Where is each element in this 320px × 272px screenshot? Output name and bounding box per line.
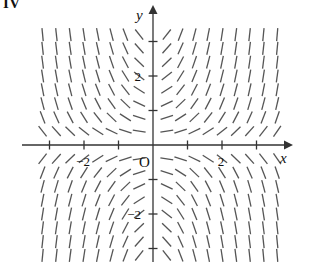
direction-field-segment: [276, 97, 279, 110]
direction-field-segment: [161, 184, 173, 190]
direction-field-segment: [221, 221, 224, 234]
direction-field-segment: [174, 129, 186, 133]
x-tick-label: −2: [76, 154, 90, 169]
direction-field-segment: [233, 167, 239, 179]
direction-field-segment: [189, 128, 201, 134]
direction-field-segment: [42, 208, 44, 221]
direction-field-segment: [161, 101, 173, 107]
direction-field-segment: [249, 42, 251, 55]
direction-field-segment: [262, 83, 265, 96]
direction-field-segment: [55, 194, 58, 207]
direction-field-segment: [235, 249, 237, 262]
direction-field-segment: [217, 127, 227, 135]
direction-field-segment: [193, 235, 197, 247]
direction-field-segment: [120, 169, 131, 176]
direction-field-segment: [221, 28, 223, 41]
direction-field-segment: [135, 250, 143, 260]
direction-field-segment: [123, 236, 128, 248]
direction-field-segment: [55, 56, 57, 69]
direction-field-segment: [206, 70, 210, 82]
direction-field-segment: [248, 208, 250, 221]
direction-field-segment: [276, 208, 278, 221]
direction-field-segment: [163, 29, 171, 39]
direction-field-segment: [162, 58, 171, 67]
direction-field-segment: [192, 208, 197, 220]
direction-field-segment: [109, 208, 114, 220]
direction-field-segment: [68, 97, 72, 109]
direction-field-segment: [263, 56, 265, 69]
direction-field-segment: [160, 130, 173, 132]
direction-field-segment: [96, 235, 99, 248]
direction-field-segment: [234, 180, 238, 192]
direction-field-segment: [275, 111, 279, 123]
y-tick-label: −2: [127, 207, 141, 222]
direction-field-segment: [161, 197, 172, 204]
direction-field-segment: [189, 156, 201, 162]
direction-field-segment: [96, 42, 99, 55]
direction-field-segment: [178, 29, 183, 41]
direction-field-segment: [262, 70, 264, 83]
direction-field-segment: [69, 42, 71, 55]
direction-field-segment: [205, 181, 211, 193]
direction-field-segment: [261, 167, 266, 179]
direction-field-segment: [207, 222, 210, 235]
x-axis-label: x: [279, 150, 287, 166]
direction-field-segment: [190, 113, 199, 122]
direction-field-segment: [206, 84, 211, 96]
direction-field-segment: [276, 56, 278, 69]
direction-field-segment: [234, 208, 237, 221]
direction-field-segment: [122, 70, 129, 81]
direction-field-segment: [235, 28, 237, 41]
direction-field-segment: [205, 98, 211, 110]
direction-field-segment: [191, 84, 197, 96]
direction-field-segment: [95, 181, 101, 193]
direction-field-segment: [247, 111, 252, 123]
direction-field-segment: [161, 171, 173, 175]
direction-field-segment: [83, 221, 86, 234]
direction-field-segment: [42, 235, 43, 248]
direction-field-segment: [109, 194, 115, 206]
x-tick-label: 2: [218, 154, 225, 169]
direction-field-segment: [110, 42, 114, 54]
direction-field-segment: [121, 99, 130, 108]
direction-field-segment: [55, 208, 57, 221]
direction-field-segment: [203, 155, 214, 162]
direction-field-segment: [110, 249, 113, 262]
direction-field-segment: [177, 195, 185, 205]
direction-field-segment: [249, 28, 250, 41]
direction-field-segment: [69, 56, 71, 69]
direction-field-segment: [69, 221, 71, 234]
direction-field-segment: [55, 83, 58, 96]
direction-field-segment: [69, 249, 71, 262]
direction-field-segment: [277, 28, 278, 41]
direction-field-segment: [108, 181, 115, 192]
direction-field-segment: [178, 42, 183, 54]
direction-field-segment: [106, 128, 118, 134]
direction-field-segment: [69, 84, 72, 97]
direction-field-segment: [178, 222, 184, 234]
direction-field-segment: [206, 208, 210, 220]
direction-field-segment: [121, 85, 129, 95]
direction-field-segment: [220, 70, 223, 83]
direction-field-segment: [120, 114, 131, 121]
direction-field-segment: [52, 126, 61, 136]
direction-field-segment: [177, 70, 184, 81]
direction-field-segment: [69, 28, 71, 41]
direction-field-segment: [276, 70, 278, 83]
direction-field-segment: [123, 29, 128, 41]
direction-field-segment: [259, 126, 267, 136]
direction-field-segment: [96, 56, 99, 69]
direction-field-segment: [42, 221, 44, 234]
direction-field-segment: [234, 194, 237, 207]
direction-field-segment: [67, 112, 73, 124]
direction-field-segment: [221, 235, 223, 248]
direction-field-segment: [248, 194, 251, 207]
direction-field-segment: [262, 97, 265, 110]
direction-field-segment: [161, 115, 173, 119]
direction-field-segment: [235, 221, 237, 234]
direction-field-segment: [69, 70, 72, 83]
direction-field-segment: [42, 56, 44, 69]
direction-field-segment: [235, 235, 237, 248]
direction-field-segment: [276, 194, 278, 207]
direction-field-segment: [275, 166, 279, 178]
